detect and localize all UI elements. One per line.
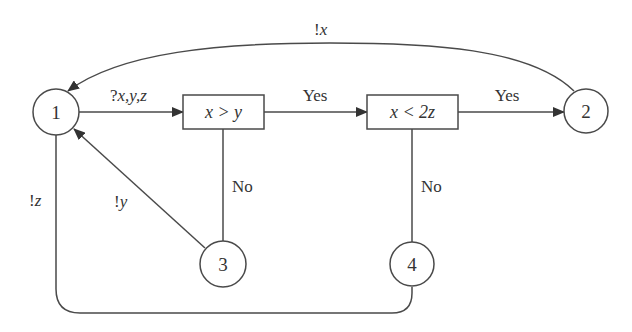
edge-label-no-2: No: [421, 177, 442, 196]
condition-label-1: x > y: [204, 102, 242, 122]
edge-label-write-x-var: x: [319, 20, 328, 39]
condition-box-2: x < 2z: [367, 95, 458, 129]
flow-diagram: 1 2 3 4 x > y x < 2z ?x,y,z Yes Yes !x N…: [0, 0, 632, 332]
edge-label-yes-1: Yes: [303, 86, 328, 105]
node-4: 4: [390, 242, 434, 286]
condition-box-1: x > y: [183, 95, 264, 129]
edge-n3-to-n1: [74, 129, 205, 248]
state-label-3: 3: [218, 254, 228, 275]
node-3: 3: [200, 241, 246, 287]
edge-label-read-xyz: ?x,y,z: [110, 86, 147, 105]
edge-label-write-z: !z: [29, 191, 42, 210]
edge-label-write-y-var: y: [118, 192, 128, 211]
node-2: 2: [564, 89, 608, 133]
state-label-2: 2: [581, 101, 591, 122]
node-1: 1: [33, 89, 79, 135]
edge-label-write-x: !x: [314, 20, 328, 39]
condition-label-2: x < 2z: [389, 102, 435, 122]
edge-label-write-z-var: z: [34, 191, 42, 210]
edge-n2-to-n1: [68, 43, 574, 91]
edge-label-no-1: No: [232, 177, 253, 196]
state-label-4: 4: [407, 254, 417, 275]
state-label-1: 1: [51, 102, 61, 123]
edge-label-write-y: !y: [114, 192, 128, 211]
edge-label-read-vars: x,y,z: [117, 86, 148, 105]
edge-label-yes-2: Yes: [495, 86, 520, 105]
edges: [56, 43, 574, 313]
edge-label-read-prefix: ?: [110, 86, 118, 105]
